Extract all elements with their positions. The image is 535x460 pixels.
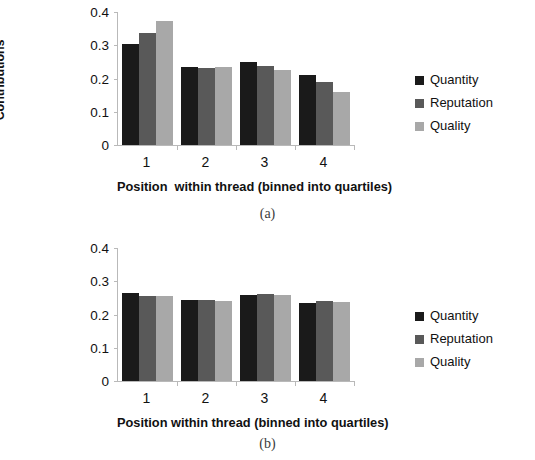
bar <box>333 302 350 381</box>
y-axis-tick-label: 0.1 <box>90 104 109 119</box>
y-axis-tick-label: 0.4 <box>90 241 109 256</box>
legend-label: Reputation <box>430 95 493 110</box>
bar <box>257 66 274 145</box>
bar <box>156 296 173 381</box>
bar-group <box>177 248 236 381</box>
chart-plot-area: Proportion of Superposter Contributions0… <box>0 0 535 200</box>
bar-group <box>118 248 177 381</box>
bar <box>122 293 139 381</box>
legend-label: Quality <box>430 118 470 133</box>
legend-swatch-icon <box>415 122 424 131</box>
x-axis-tick-label: 4 <box>320 390 328 406</box>
legend-item[interactable]: Reputation <box>415 327 493 350</box>
x-axis-tick-label: 2 <box>202 154 210 170</box>
bar-group <box>236 248 295 381</box>
figure-caption: (b) <box>0 436 535 452</box>
legend-label: Quantity <box>430 308 478 323</box>
bar <box>316 82 333 145</box>
y-axis-tick-label: 0.3 <box>90 274 109 289</box>
legend-swatch-icon <box>415 358 424 367</box>
x-axis-tick-mark <box>177 381 178 386</box>
x-axis-tick-mark <box>177 145 178 150</box>
x-axis-tick-mark <box>236 145 237 150</box>
x-axis-tick-mark <box>354 381 355 386</box>
bar <box>274 295 291 381</box>
bar <box>333 92 350 145</box>
y-axis-tick-label: 0.4 <box>90 5 109 20</box>
legend-label: Quality <box>430 354 470 369</box>
x-axis-title: Position within thread (binned into quar… <box>117 415 353 430</box>
figure-caption: (a) <box>0 206 535 222</box>
x-axis-tick-mark <box>295 145 296 150</box>
legend-swatch-icon <box>415 312 424 321</box>
figure-panel-b: Proportion of Non- Superposter Contribut… <box>0 230 535 460</box>
bar <box>299 303 316 381</box>
bar <box>181 67 198 145</box>
legend-label: Quantity <box>430 72 478 87</box>
legend-item[interactable]: Quality <box>415 350 493 373</box>
y-axis-tick-label: 0.2 <box>90 71 109 86</box>
bar-group <box>118 12 177 145</box>
plot-frame <box>117 248 354 382</box>
chart-legend: QuantityReputationQuality <box>415 68 493 137</box>
y-axis-tick-label: 0.1 <box>90 340 109 355</box>
bar <box>299 75 316 145</box>
bar <box>274 70 291 145</box>
x-axis-tick-label: 4 <box>320 154 328 170</box>
bar <box>240 62 257 145</box>
x-axis-tick-label: 1 <box>143 390 151 406</box>
x-axis-tick-label: 3 <box>261 154 269 170</box>
bar <box>257 294 274 381</box>
legend-item[interactable]: Quantity <box>415 304 493 327</box>
bar <box>215 301 232 381</box>
chart-plot-area: Proportion of Non- Superposter Contribut… <box>0 230 535 430</box>
legend-item[interactable]: Reputation <box>415 91 493 114</box>
y-axis-tick-mark <box>114 145 119 146</box>
bar <box>215 67 232 145</box>
chart-legend: QuantityReputationQuality <box>415 304 493 373</box>
y-axis-tick-label: 0 <box>101 138 109 153</box>
x-axis-tick-label: 2 <box>202 390 210 406</box>
x-axis-tick-label: 3 <box>261 390 269 406</box>
legend-swatch-icon <box>415 76 424 85</box>
figure-panel-a: Proportion of Superposter Contributions0… <box>0 0 535 230</box>
bar <box>316 301 333 381</box>
y-axis-tick-label: 0 <box>101 374 109 389</box>
bar <box>198 68 215 145</box>
bar <box>139 33 156 145</box>
bar-group <box>295 12 354 145</box>
y-axis-tick-label: 0.3 <box>90 38 109 53</box>
legend-swatch-icon <box>415 99 424 108</box>
legend-swatch-icon <box>415 335 424 344</box>
bar <box>240 295 257 381</box>
y-axis-tick-labels: 00.10.20.30.4 <box>75 12 109 145</box>
legend-label: Reputation <box>430 331 493 346</box>
bar <box>181 300 198 381</box>
x-axis-tick-mark <box>236 381 237 386</box>
y-axis-tick-mark <box>114 381 119 382</box>
bar <box>198 300 215 381</box>
bar <box>139 296 156 381</box>
x-axis-title: Position within thread (binned into quar… <box>117 179 353 194</box>
y-axis-tick-labels: 00.10.20.30.4 <box>75 248 109 381</box>
bar <box>122 44 139 145</box>
bar-group <box>177 12 236 145</box>
x-axis-tick-label: 1 <box>143 154 151 170</box>
bar-group <box>295 248 354 381</box>
legend-item[interactable]: Quantity <box>415 68 493 91</box>
x-axis-tick-mark <box>295 381 296 386</box>
bar-group <box>236 12 295 145</box>
y-axis-tick-label: 0.2 <box>90 307 109 322</box>
x-axis-tick-mark <box>354 145 355 150</box>
bar <box>156 21 173 145</box>
plot-frame <box>117 12 354 146</box>
legend-item[interactable]: Quality <box>415 114 493 137</box>
